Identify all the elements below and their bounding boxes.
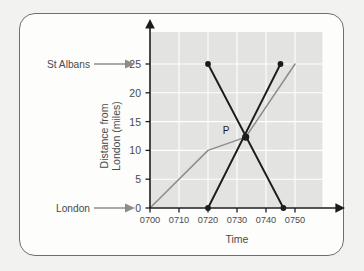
marker-journey-c-start — [205, 61, 211, 67]
x-tick-label-5: 0750 — [285, 215, 305, 225]
marker-journey-b-end — [278, 61, 284, 67]
intersection-point-label: P — [223, 125, 230, 136]
x-axis-title: Time — [226, 233, 249, 245]
x-tick-label-3: 0730 — [227, 215, 247, 225]
x-tick-label-1: 0710 — [169, 215, 189, 225]
y-axis-title-line2: London (miles) — [110, 101, 122, 170]
london-annotation-label: London — [56, 203, 90, 214]
x-tick-label-0: 0700 — [140, 215, 160, 225]
y-tick-label-4: 20 — [129, 87, 141, 99]
page-root: P 0700 — [0, 0, 364, 271]
x-tick-label-2: 0720 — [198, 215, 218, 225]
chart-svg: P 0700 — [0, 0, 364, 271]
y-axis-title-line1: Distance from — [98, 103, 110, 168]
travel-graph-figure: P 0700 — [0, 0, 364, 271]
intersection-point-marker — [242, 134, 249, 141]
st-albans-annotation-label: St Albans — [47, 59, 90, 70]
y-tick-label-1: 5 — [135, 173, 141, 185]
y-tick-label-3: 15 — [129, 116, 141, 128]
y-tick-label-2: 10 — [129, 144, 141, 156]
x-tick-label-4: 0740 — [256, 215, 276, 225]
y-tick-label-5: 25 — [129, 58, 141, 70]
y-tick-label-0: 0 — [135, 202, 141, 214]
